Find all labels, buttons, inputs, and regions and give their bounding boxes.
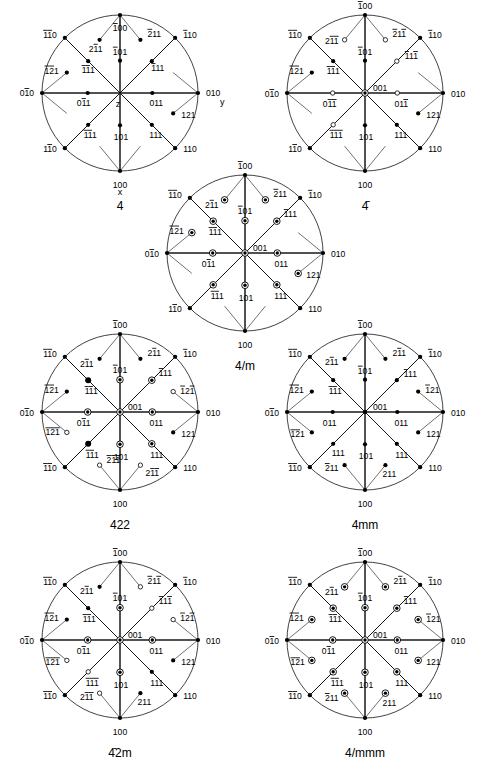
pole-both-core [331,638,334,641]
pole-label: 001 [373,402,388,412]
pole-label: 100 [358,499,373,509]
pole-label: 100 [113,499,128,509]
pole-upper [310,389,314,393]
pole-lower [138,585,142,589]
pole-label: 110 [43,577,57,587]
pole-upper [363,123,367,127]
pole-label: 010 [451,636,466,646]
pole-label: 111 [211,291,224,301]
pole-both-core [86,638,89,641]
pole-upper [363,410,367,414]
pole-label: 011 [394,418,408,428]
stereogram-pg-4overmmm[interactable]: 1001000100101101101101100011011010110111… [261,536,469,744]
stereogram-pg-4bar2m[interactable]: 1001000100101101101101100011011010110111… [16,536,224,744]
pole-label: 211 [80,359,94,369]
pole-label: 110 [43,349,57,359]
pole-upper [363,332,367,336]
pole-label: 001 [253,243,268,253]
pole-label: 111 [274,291,287,301]
pole-both-core [223,198,226,201]
pole-upper [418,693,422,697]
axis-label-x: x [118,187,123,197]
pole-label: 211 [325,357,339,367]
pole-label: 211 [273,189,287,199]
pole-label: 110 [428,577,442,587]
pole-label: 110 [183,463,197,473]
pole-label: 211 [80,586,94,596]
pole-label: 101 [113,365,128,375]
caption-pg-4mm: 4mm [305,518,425,532]
pole-upper [395,442,399,446]
pole-label: 111 [151,63,164,73]
pole-upper [363,488,367,492]
stereogram-pg-4mm[interactable]: 1001000100101101101101100011011010110111… [261,308,469,516]
pole-label: 211 [107,455,121,465]
pole-upper [85,377,91,383]
pole-label: 110 [288,463,302,473]
pole-upper [165,251,169,255]
pole-label: 100 [113,548,128,558]
pole-lower [395,59,399,63]
pole-label: 101 [114,680,129,690]
pole-upper [85,441,91,447]
pole-label: 121 [426,657,441,667]
pole-label: 110 [43,30,57,40]
pole-upper [441,91,445,95]
pole-label: 110 [288,577,302,587]
pole-both-core [343,585,346,588]
pole-upper [310,70,314,74]
pole-both-core [363,671,366,674]
pole-both-core [151,410,154,413]
pole-label: 110 [43,144,57,154]
pole-label: 111 [85,386,98,396]
pole-label: 110 [428,30,442,40]
pole-upper [63,355,67,359]
pole-both-core [211,283,214,286]
pole-upper [331,442,335,446]
pole-both-core [118,671,121,674]
pole-label: 100 [358,180,373,190]
pole-both-core [363,91,366,94]
pole-label: 110 [43,691,57,701]
pole-label: 121 [426,429,441,439]
pole-label: 111 [150,678,163,688]
pole-upper [86,59,90,63]
pole-upper [86,606,90,610]
stereogram-pg-422[interactable]: 1001000100101101101101100011011010110111… [16,308,224,516]
pole-label: 100 [113,320,128,330]
pole-label: 010 [451,408,466,418]
pole-label: 110 [183,30,197,40]
pole-label: 211 [392,348,406,358]
pole-both-core [118,638,121,641]
pole-label: 111 [284,209,297,219]
pole-label: 121 [181,110,196,120]
pole-upper [118,332,122,336]
pole-label: 111 [84,130,97,140]
pole-upper [331,410,335,414]
pole-label: 110 [288,349,302,359]
pole-label: 011 [323,99,337,109]
pole-label: 011 [274,259,288,269]
pole-upper [63,465,67,469]
pole-label: 011 [149,418,163,428]
pole-upper [171,430,175,434]
pole-lower [86,670,90,674]
pole-lower [65,658,69,662]
pole-upper [97,357,101,361]
pole-upper [416,430,420,434]
pole-upper [342,357,346,361]
pole-label: 010 [20,408,35,418]
pole-upper [173,583,177,587]
pole-label: 101 [358,366,373,376]
pole-lower [65,430,69,434]
pole-label: 110 [288,30,302,40]
pole-lower [150,606,154,610]
pole-label: 121 [45,427,60,437]
pole-upper [63,36,67,40]
pole-upper [150,123,154,127]
pole-upper [86,91,90,95]
pole-label: 101 [358,593,373,603]
pole-label: 211 [80,692,94,702]
pole-label: 101 [358,47,373,57]
pole-both-core [243,219,246,222]
